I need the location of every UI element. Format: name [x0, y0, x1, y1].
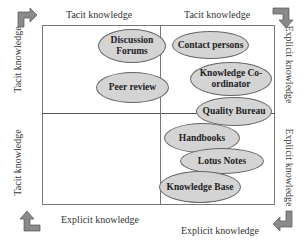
bottom-left-label: Explicit knowledge: [61, 214, 139, 225]
node-discussion-forums: Discussion Forums: [98, 29, 166, 63]
top-left-label: Tacit knowledge: [66, 9, 132, 20]
node-knowledge-coordinator: Knowledge Co-ordinator: [190, 62, 272, 96]
right-lower-label: Explicit knowledge: [284, 123, 295, 213]
node-peer-review: Peer review: [96, 72, 169, 103]
arrow-up-icon: [18, 210, 42, 232]
right-upper-label: Explicit knowledge: [284, 20, 295, 110]
bottom-right-label: Explicit knowledge: [181, 225, 259, 236]
node-knowledge-base: Knowledge Base: [159, 171, 241, 203]
left-upper-label: Tacit knowledge: [12, 20, 23, 100]
arrow-left-icon: [272, 210, 294, 232]
arrow-right-icon: [16, 6, 38, 28]
top-right-label: Tacit knowledge: [184, 9, 250, 20]
node-lotus-notes: Lotus Notes: [180, 148, 264, 174]
arrow-down-icon: [272, 6, 294, 30]
node-quality-bureau: Quality Bureau: [196, 97, 272, 126]
left-lower-label: Tacit knowledge: [12, 123, 23, 203]
node-contact-persons: Contact persons: [172, 31, 249, 59]
